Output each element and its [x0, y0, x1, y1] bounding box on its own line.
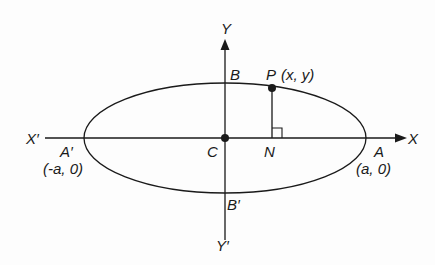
- diagram-graphics: [0, 0, 435, 265]
- label-y-axis: Y: [221, 21, 231, 36]
- x-axis-arrow-icon: [395, 134, 407, 143]
- label-b: B: [230, 67, 240, 82]
- label-p-coords: (x, y): [281, 67, 314, 82]
- y-axis-arrow-icon: [221, 39, 230, 50]
- label-a-prime-coords: (-a, 0): [43, 161, 83, 176]
- label-a: A: [374, 144, 384, 159]
- right-angle-marker: [272, 128, 282, 138]
- label-a-coords: (a, 0): [356, 161, 391, 176]
- label-c: C: [207, 144, 218, 159]
- label-x-axis: X: [408, 131, 418, 146]
- ellipse-diagram: Y B P (x, y) X′ A′ (-a, 0) C N X A (a, 0…: [0, 0, 435, 265]
- point-c-dot: [221, 134, 229, 142]
- label-n: N: [264, 144, 275, 159]
- label-x-negative: X′: [26, 131, 39, 146]
- label-y-negative: Y′: [216, 238, 229, 253]
- point-p-dot: [268, 84, 276, 92]
- label-a-prime: A′: [60, 144, 73, 159]
- label-b-prime: B′: [227, 197, 240, 212]
- label-p: P: [266, 67, 276, 82]
